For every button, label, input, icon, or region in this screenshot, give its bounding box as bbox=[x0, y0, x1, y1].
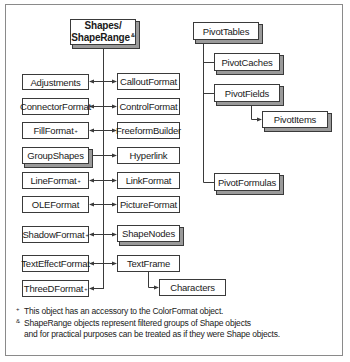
root-line1: Shapes/ bbox=[85, 20, 122, 32]
lineformat-node: LineFormat+ bbox=[22, 172, 89, 189]
pivotitems-node: PivotItems bbox=[262, 111, 328, 128]
footnote-accessory: +This object has an accessory to the Col… bbox=[16, 306, 280, 318]
footnotes: +This object has an accessory to the Col… bbox=[16, 306, 280, 341]
shapenodes-node: ShapeNodes bbox=[117, 225, 180, 242]
linkformat-node: LinkFormat bbox=[117, 172, 180, 189]
pivotformulas-node: PivotFormulas bbox=[214, 173, 280, 191]
freeformbuilder-node: FreeformBuilder bbox=[117, 122, 180, 139]
fillformat-node: FillFormat+ bbox=[22, 122, 89, 139]
pivotfields-node: PivotFields bbox=[214, 84, 280, 102]
root-line2: ShapeRange& bbox=[71, 32, 134, 44]
footnote-shaperange-cont: and for practical purposes can be treate… bbox=[16, 329, 280, 341]
pivottables-node: PivotTables bbox=[193, 22, 259, 40]
texteffectformat-node: TextEffectFormat bbox=[22, 255, 89, 272]
calloutformat-node: CalloutFormat bbox=[117, 73, 180, 90]
hyperlink-node: Hyperlink bbox=[117, 147, 180, 164]
controlformat-node: ControlFormat bbox=[117, 98, 180, 115]
pictureformat-node: PictureFormat bbox=[117, 196, 180, 213]
textframe-node: TextFrame bbox=[117, 255, 180, 272]
characters-node: Characters bbox=[159, 279, 226, 296]
shadowformat-node: ShadowFormat+ bbox=[22, 226, 89, 243]
oleformat-node: OLEFormat bbox=[22, 196, 89, 213]
footnote-shaperange: &ShapeRange objects represent filtered g… bbox=[16, 318, 280, 330]
adjustments-node: Adjustments bbox=[22, 74, 89, 90]
pivotcaches-node: PivotCaches bbox=[214, 53, 280, 71]
threedformat-node: ThreeDFormat+ bbox=[22, 280, 89, 297]
shapes-shaperange-node: Shapes/ ShapeRange& bbox=[70, 19, 136, 45]
connectorformat-node: ConnectorFormat bbox=[22, 98, 89, 115]
groupshapes-node: GroupShapes bbox=[22, 147, 89, 164]
